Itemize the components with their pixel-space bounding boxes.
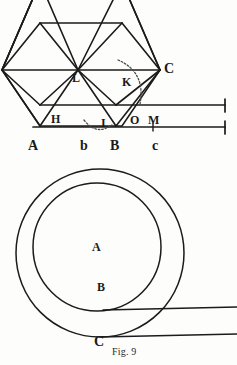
top-hexagon-group [2, 0, 160, 126]
label-A-top: A [28, 139, 38, 153]
hexagon-lower-left-edge [2, 70, 40, 126]
hexagon-lower-diag-6 [2, 70, 40, 105]
label-O: O [130, 114, 139, 126]
label-c-lower: c [152, 139, 158, 153]
label-I: I [101, 117, 106, 129]
hexagon-diagonal-1 [2, 0, 40, 70]
hexagon-diagonal-8 [122, 23, 160, 70]
label-A-circle: A [92, 241, 101, 253]
circle-tangent-lines-group [100, 307, 237, 337]
hexagon-diagonal-4 [2, 23, 40, 70]
hexagon-lower-diag-5 [78, 70, 116, 105]
label-K: K [122, 76, 131, 88]
label-L: L [72, 72, 80, 84]
label-H: H [51, 113, 60, 125]
figure-9-drawing [0, 0, 237, 365]
hexagon-lower-diag-2 [78, 70, 116, 126]
label-M: M [148, 114, 159, 126]
dotted-arc-b-to-B [84, 120, 112, 129]
hexagon-diagonal-9 [78, 23, 122, 70]
label-B-top: B [110, 139, 119, 153]
label-C-top: C [164, 62, 174, 76]
hexagon-diagonal-3 [2, 0, 40, 70]
label-C-circle: C [94, 335, 104, 349]
hexagon-diagonal-7 [78, 0, 122, 70]
figure-caption: Fig. 9 [112, 346, 137, 357]
label-B-circle: B [97, 281, 105, 293]
hexagon-diagonal-5 [40, 23, 78, 70]
hexagon-diagonal-2 [40, 0, 78, 70]
hexagon-diagonal-6 [122, 0, 160, 70]
figure-9-container: L K C H I O M A b B c A B C Fig. 9 [0, 0, 237, 365]
label-b-lower: b [80, 139, 88, 153]
tangent-line-B [103, 307, 237, 310]
